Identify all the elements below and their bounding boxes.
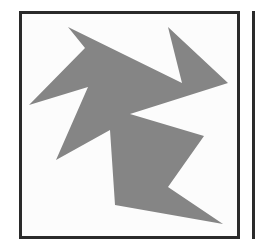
irregular-star-polygon (29, 27, 228, 224)
polygon-figure (0, 0, 255, 248)
